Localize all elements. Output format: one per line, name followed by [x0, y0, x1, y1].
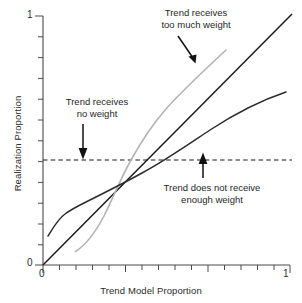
y-axis-ticks: [35, 16, 43, 265]
too-much-weight-arrow-icon: [178, 36, 197, 64]
x-axis-tick-label-max: 1: [283, 268, 289, 279]
too-much-weight-curve: [76, 50, 227, 252]
x-axis-tick-label-min: 0: [39, 268, 45, 279]
y-axis-title: Realization Proportion: [12, 64, 23, 224]
no-weight-arrow-icon: [79, 124, 88, 160]
y-axis-tick-label-min: 0: [27, 257, 33, 268]
y-axis-tick-label-max: 1: [27, 9, 33, 20]
x-axis-title: Trend Model Proportion: [0, 285, 302, 296]
identity-diagonal-line: [43, 14, 292, 265]
annotation-too-much-weight: Trend receives too much weight: [133, 7, 259, 30]
annotation-not-enough-weight: Trend does not receive enough weight: [136, 182, 288, 205]
not-enough-weight-arrow-icon: [199, 153, 208, 179]
chart-figure: Trend Model Proportion Realization Propo…: [0, 0, 302, 303]
annotation-no-weight: Trend receives no weight: [45, 96, 149, 119]
chart-plot-area: [0, 0, 302, 303]
x-axis-ticks: [43, 265, 290, 273]
